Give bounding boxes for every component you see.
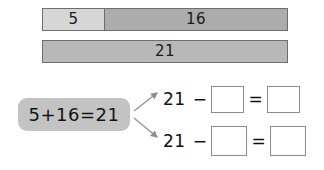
addition-equation-text: 5+16=21 xyxy=(29,106,120,124)
row-1-minuend: 21 xyxy=(163,91,186,108)
row-2-difference-box[interactable] xyxy=(270,126,306,156)
whole-bar-label: 21 xyxy=(155,44,175,59)
whole-bar: 21 xyxy=(42,40,288,63)
arrow-to-row-1 xyxy=(134,93,157,111)
bar-segment-part-2-label: 16 xyxy=(186,12,206,27)
subtraction-row-2: 21 − = xyxy=(163,126,306,156)
bar-segment-part-1-label: 5 xyxy=(68,12,78,27)
row-2-minuend: 21 xyxy=(163,133,186,150)
bar-model-worksheet: 5 16 21 5+16=21 21 − = 21 − xyxy=(0,0,324,170)
row-2-minus-sign: − xyxy=(193,133,208,150)
bar-segment-part-2: 16 xyxy=(105,9,287,30)
subtraction-row-1: 21 − = xyxy=(163,86,300,113)
row-1-equals-sign: = xyxy=(248,91,263,108)
addition-equation-pill: 5+16=21 xyxy=(18,98,130,131)
row-2-equals-sign: = xyxy=(251,133,266,150)
bar-segment-part-1: 5 xyxy=(43,9,105,30)
row-1-subtrahend-box[interactable] xyxy=(211,86,244,113)
row-1-minus-sign: − xyxy=(193,91,208,108)
row-2-subtrahend-box[interactable] xyxy=(211,126,247,156)
row-1-difference-box[interactable] xyxy=(267,86,300,113)
whole-bar-inner: 21 xyxy=(43,41,287,62)
part-part-bar: 5 16 xyxy=(42,8,288,31)
arrow-to-row-2 xyxy=(134,118,157,137)
